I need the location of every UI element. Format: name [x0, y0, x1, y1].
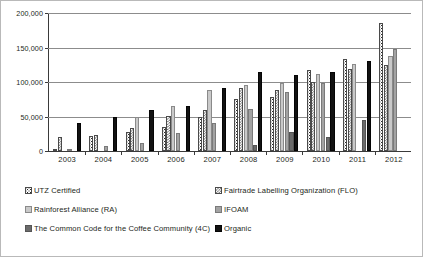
bar	[186, 106, 190, 151]
bar	[393, 49, 397, 151]
y-tick-label: 50,000	[20, 112, 43, 121]
bar	[258, 72, 262, 151]
legend-item-label: The Common Code for the Coffee Community…	[34, 224, 210, 233]
plot-area: 200,000150,000100,00050,0000	[48, 13, 411, 151]
bar	[289, 132, 293, 151]
chart-figure: 200,000150,000100,00050,0000 20032004200…	[0, 0, 423, 257]
bar	[248, 109, 252, 151]
bar	[307, 70, 311, 151]
bar	[113, 117, 117, 151]
bar	[104, 146, 108, 151]
bar	[67, 149, 71, 151]
bar	[89, 136, 93, 151]
legend-item-label: IFOAM	[224, 205, 249, 214]
x-axis-label-2005: 2005	[122, 155, 158, 169]
bar	[222, 88, 226, 151]
bar	[388, 56, 392, 151]
legend-item: Rainforest Alliance (RA)	[25, 200, 215, 219]
bar	[311, 82, 315, 151]
bar-groups	[49, 13, 411, 151]
bar-group-2005	[121, 13, 157, 151]
legend-item-label: Fairtrade Labelling Organization (FLO)	[224, 186, 358, 195]
legend-item-label: Rainforest Alliance (RA)	[34, 205, 117, 214]
bar	[285, 92, 289, 151]
y-tick-label: 100,000	[16, 78, 43, 87]
y-tick-label: 150,000	[16, 43, 43, 52]
bar	[234, 99, 238, 151]
x-axis-label-2008: 2008	[230, 155, 266, 169]
chart-legend: UTZ CertifiedFairtrade Labelling Organiz…	[25, 181, 405, 238]
bar	[58, 137, 62, 151]
bar	[270, 97, 274, 151]
legend-item: IFOAM	[215, 200, 405, 219]
bar	[130, 128, 134, 151]
bar	[294, 75, 298, 151]
bar-group-2006	[158, 13, 194, 151]
bar	[171, 106, 175, 151]
flo-swatch	[215, 187, 222, 194]
bar	[343, 59, 347, 151]
x-axis-label-2004: 2004	[85, 155, 121, 169]
bar	[316, 74, 320, 151]
bar-group-2004	[85, 13, 121, 151]
bar	[244, 85, 248, 151]
bar-group-2010	[302, 13, 338, 151]
bar	[239, 88, 243, 151]
x-axis-label-2010: 2010	[303, 155, 339, 169]
x-axis-label-2006: 2006	[158, 155, 194, 169]
utz-swatch	[25, 187, 32, 194]
legend-item-label: Organic	[224, 224, 251, 233]
bar	[77, 123, 81, 151]
bar	[321, 83, 325, 151]
ra-swatch	[25, 206, 32, 213]
bar-group-2011	[339, 13, 375, 151]
bar-group-2007	[194, 13, 230, 151]
bar	[275, 90, 279, 151]
x-axis-labels: 2003200420052006200720082009201020112012	[49, 155, 412, 169]
bar	[348, 69, 352, 151]
legend-item: Organic	[215, 219, 405, 238]
x-axis-label-2009: 2009	[267, 155, 303, 169]
x-axis-label-2011: 2011	[339, 155, 375, 169]
bar-group-2008	[230, 13, 266, 151]
y-tick-mark	[45, 82, 48, 83]
bar	[384, 65, 388, 151]
bar	[126, 132, 130, 151]
bar-group-2012	[375, 13, 411, 151]
bar	[352, 64, 356, 151]
bar	[198, 117, 202, 152]
x-axis-label-2007: 2007	[194, 155, 230, 169]
bar	[176, 133, 180, 151]
bar	[212, 123, 216, 151]
bar-group-2009	[266, 13, 302, 151]
legend-item: Fairtrade Labelling Organization (FLO)	[215, 181, 405, 200]
y-tick-mark	[45, 151, 48, 152]
bar	[162, 127, 166, 151]
y-tick-label: 200,000	[16, 9, 43, 18]
legend-item-label: UTZ Certified	[34, 186, 80, 195]
bar	[166, 116, 170, 151]
y-tick-mark	[45, 13, 48, 14]
bar	[253, 145, 257, 151]
bar	[379, 23, 383, 151]
bar	[280, 83, 284, 151]
bar	[207, 90, 211, 151]
bar	[362, 120, 366, 151]
bar	[330, 72, 334, 151]
bar	[53, 149, 57, 151]
bar	[367, 61, 371, 151]
bar	[203, 110, 207, 151]
x-axis-label-2012: 2012	[376, 155, 412, 169]
x-axis-label-2003: 2003	[49, 155, 85, 169]
bar	[94, 135, 98, 151]
fourc-swatch	[25, 225, 32, 232]
bar	[149, 110, 153, 151]
bar-group-2003	[49, 13, 85, 151]
bar	[326, 137, 330, 151]
organic-swatch	[215, 225, 222, 232]
bar	[135, 117, 139, 152]
ifoam-swatch	[215, 206, 222, 213]
y-tick-mark	[45, 117, 48, 118]
y-tick-mark	[45, 48, 48, 49]
legend-item: The Common Code for the Coffee Community…	[25, 219, 215, 238]
